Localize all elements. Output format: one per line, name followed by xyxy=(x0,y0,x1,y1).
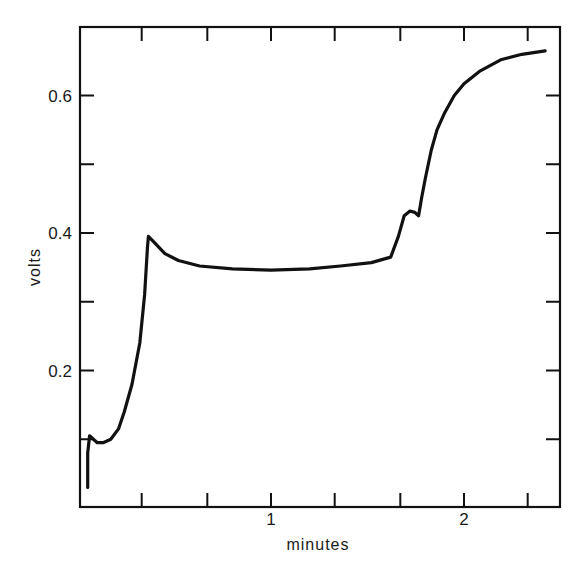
tick-labels: 120.20.40.6 xyxy=(48,87,468,530)
y-tick-label: 0.6 xyxy=(48,87,72,106)
x-tick-label: 2 xyxy=(459,510,468,529)
voltage-curve xyxy=(88,51,545,488)
y-tick-label: 0.4 xyxy=(48,224,72,243)
x-axis-title: minutes xyxy=(286,536,349,553)
y-tick-label: 0.2 xyxy=(48,362,72,381)
x-tick-label: 1 xyxy=(266,510,275,529)
y-axis-title: volts xyxy=(26,248,43,286)
line-chart: 120.20.40.6 minutes volts xyxy=(0,0,581,564)
